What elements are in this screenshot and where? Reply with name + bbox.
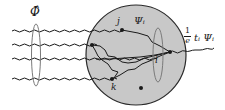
- fraction-denominator: e: [185, 37, 190, 45]
- vertex-left: [90, 43, 94, 47]
- wavy-line-2: [12, 44, 97, 46]
- output-term-label: tᵢ Ψᵢ: [194, 33, 214, 43]
- output-fraction: 1 e: [184, 27, 191, 45]
- isolated-dot: [139, 86, 143, 90]
- k-label: k: [111, 83, 116, 92]
- phi-hat-label: Φ̂: [30, 6, 40, 18]
- vertex-i: [168, 50, 172, 54]
- j-label: j: [117, 17, 120, 26]
- phi-hat-ellipse: [32, 24, 41, 86]
- vertex-j: [120, 28, 124, 32]
- psi-i-label: Ψᵢ: [134, 16, 145, 26]
- vertex-k: [110, 77, 114, 81]
- i-label: i: [155, 56, 158, 65]
- fraction-numerator: 1: [185, 27, 190, 35]
